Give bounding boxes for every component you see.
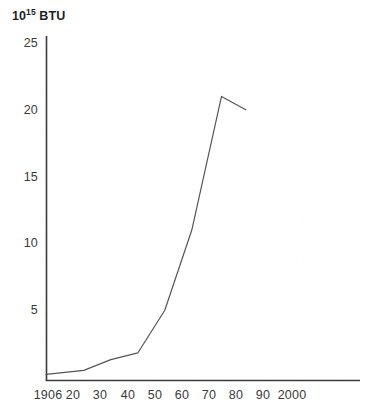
plot-area <box>0 0 375 417</box>
chart-container: 1015 BTU 25 20 15 10 5 1906 20 30 40 50 … <box>0 0 375 417</box>
data-series-line <box>46 96 246 374</box>
